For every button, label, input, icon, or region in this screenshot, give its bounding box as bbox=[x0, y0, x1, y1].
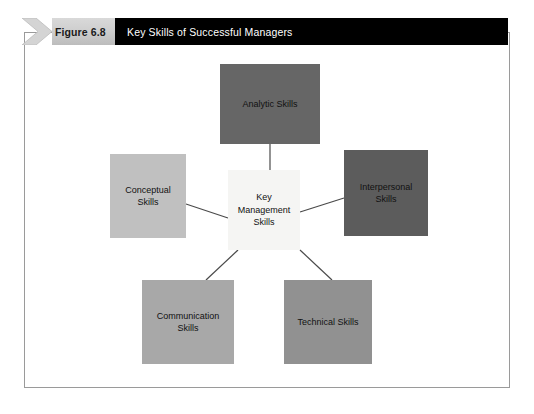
node-technical-skills[interactable]: Technical Skills bbox=[284, 280, 372, 364]
node-interpersonal-skills-label: Interpersonal Skills bbox=[356, 181, 417, 206]
figure-number-label: Figure 6.8 bbox=[55, 26, 106, 38]
figure-number-block: Figure 6.8 bbox=[52, 18, 115, 45]
node-communication-skills[interactable]: Communication Skills bbox=[142, 280, 234, 364]
connector-center-communication bbox=[206, 250, 238, 280]
chevron-right-icon bbox=[22, 18, 52, 45]
node-technical-skills-label: Technical Skills bbox=[293, 316, 362, 329]
connector-center-interpersonal bbox=[300, 198, 344, 212]
node-analytic-skills-label: Analytic Skills bbox=[238, 98, 301, 111]
node-key-management-skills-label: Key Management Skills bbox=[234, 191, 295, 229]
node-conceptual-skills[interactable]: Conceptual Skills bbox=[110, 154, 186, 238]
node-communication-skills-label: Communication Skills bbox=[153, 310, 224, 335]
node-conceptual-skills-label: Conceptual Skills bbox=[121, 184, 175, 209]
node-interpersonal-skills[interactable]: Interpersonal Skills bbox=[344, 150, 428, 236]
node-analytic-skills[interactable]: Analytic Skills bbox=[220, 64, 320, 144]
connector-center-technical bbox=[300, 250, 332, 280]
figure-header: Figure 6.8 Key Skills of Successful Mana… bbox=[22, 18, 508, 45]
figure-title-block: Key Skills of Successful Managers bbox=[115, 18, 508, 45]
connector-center-conceptual bbox=[186, 204, 228, 218]
node-key-management-skills[interactable]: Key Management Skills bbox=[228, 170, 300, 250]
figure-title-label: Key Skills of Successful Managers bbox=[127, 26, 292, 38]
diagram-canvas: Analytic Skills Conceptual Skills Interp… bbox=[24, 32, 510, 388]
